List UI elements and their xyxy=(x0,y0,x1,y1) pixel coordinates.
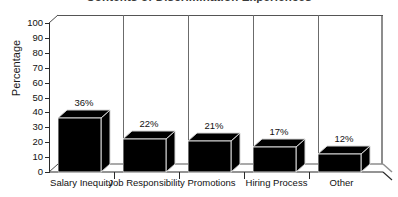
y-tick-mark-100 xyxy=(45,23,50,24)
bar-2: 21% xyxy=(188,0,240,197)
y-tick-mark-20 xyxy=(45,142,50,143)
y-tick-mark-10 xyxy=(45,157,50,158)
y-tick-label-50: 50 xyxy=(17,93,43,102)
y-tick-label-20: 20 xyxy=(17,137,43,146)
y-tick-label-70: 70 xyxy=(17,63,43,72)
y-tick-label-40: 40 xyxy=(17,107,43,116)
bar-value-label-2: 21% xyxy=(179,120,249,131)
bar-3d-shape-3 xyxy=(253,0,307,197)
bar-value-label-1: 22% xyxy=(114,118,184,129)
bar-3d-shape-1 xyxy=(123,0,177,197)
bar-0: 36% xyxy=(58,0,110,197)
y-tick-mark-60 xyxy=(45,83,50,84)
y-tick-label-90: 90 xyxy=(17,33,43,42)
y-tick-label-100: 100 xyxy=(17,18,43,27)
y-tick-mark-30 xyxy=(45,127,50,128)
y-tick-label-60: 60 xyxy=(17,78,43,87)
y-tick-label-30: 30 xyxy=(17,122,43,131)
bar-chart: Contents of Discrimination Experiences P… xyxy=(0,0,398,197)
y-tick-mark-80 xyxy=(45,53,50,54)
bar-3: 17% xyxy=(253,0,305,197)
y-tick-label-80: 80 xyxy=(17,48,43,57)
y-tick-mark-70 xyxy=(45,68,50,69)
y-tick-mark-40 xyxy=(45,112,50,113)
bar-value-label-3: 17% xyxy=(244,126,314,137)
bar-value-label-4: 12% xyxy=(309,133,379,144)
x-axis-label-4: Other xyxy=(282,177,398,188)
bar-1: 22% xyxy=(123,0,175,197)
y-tick-mark-0 xyxy=(45,172,50,173)
bar-value-label-0: 36% xyxy=(49,97,119,108)
bar-4: 12% xyxy=(318,0,370,197)
bar-3d-shape-2 xyxy=(188,0,242,197)
y-tick-mark-90 xyxy=(45,38,50,39)
y-tick-label-0: 0 xyxy=(17,167,43,176)
y-tick-label-10: 10 xyxy=(17,152,43,161)
bar-3d-shape-4 xyxy=(318,0,372,197)
